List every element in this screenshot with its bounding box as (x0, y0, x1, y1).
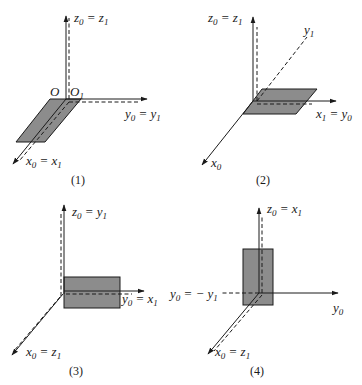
caption-1: (1) (71, 173, 85, 187)
label-z0-z1: z0 = z1 (207, 10, 242, 27)
label-x1-y0: x1 = y0 (315, 106, 352, 123)
plate-vertical (243, 249, 273, 305)
caption-4: (4) (250, 364, 264, 378)
panel-4: z0 = x1 y0 = − y1 y0 x0 = z1 (4) (168, 201, 344, 378)
label-y0-y1: y0 = y1 (123, 106, 161, 123)
label-z0-z1: z0 = z1 (73, 10, 108, 27)
label-x0-z1: x0 = z1 (214, 344, 250, 361)
label-y1: y1 (302, 22, 314, 39)
label-origin-o1: O1 (70, 84, 84, 101)
label-y0-x1: y0 = x1 (120, 291, 158, 308)
label-x0: x0 (210, 155, 222, 172)
plate-vertical (64, 277, 120, 308)
label-origin-o: O (50, 84, 60, 99)
panel-1: z0 = z1 O O1 y0 = y1 x0 = x1 (1) (13, 10, 161, 187)
label-y0-neg-y1: y0 = − y1 (168, 286, 218, 303)
label-z0-y1: z0 = y1 (71, 204, 107, 221)
label-x0-z1: x0 = z1 (25, 344, 61, 361)
frame-assignment-figure: z0 = z1 O O1 y0 = y1 x0 = x1 (1) z0 = z1… (0, 0, 362, 385)
label-z0-x1: z0 = x1 (266, 201, 302, 218)
x0-axis (202, 101, 253, 165)
label-y0: y0 (331, 300, 344, 317)
panel-2: z0 = z1 y1 x1 = y0 x0 (2) (202, 10, 352, 187)
caption-3: (3) (69, 364, 83, 378)
panel-3: z0 = y1 y0 = x1 x0 = z1 (3) (12, 204, 158, 378)
caption-2: (2) (256, 173, 270, 187)
label-x0-x1: x0 = x1 (25, 153, 62, 170)
